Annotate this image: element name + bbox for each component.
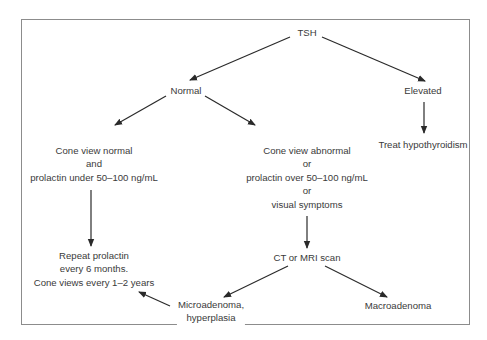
node-label-line: prolactin under 50–100 ng/mL xyxy=(30,171,157,184)
edge-ctmri-macro xyxy=(325,266,387,297)
edge-ctmri-micro xyxy=(224,266,288,297)
node-ct-mri-scan: CT or MRI scan xyxy=(273,251,342,264)
node-label: Macroadenoma xyxy=(365,300,432,311)
node-tsh: TSH xyxy=(296,26,317,39)
node-macroadenoma: Macroadenoma xyxy=(364,299,433,312)
node-label: TSH xyxy=(297,27,316,38)
edge-tsh-normal xyxy=(190,37,290,80)
edge-normal-coneabnormal xyxy=(205,96,255,125)
node-label: Elevated xyxy=(404,85,441,96)
node-normal: Normal xyxy=(170,84,203,97)
node-label-line: or xyxy=(246,157,368,170)
node-label-line: Cone views every 1–2 years xyxy=(34,276,155,289)
edge-tsh-elevated xyxy=(322,37,425,81)
node-label-line: prolactin over 50–100 ng/mL xyxy=(246,171,368,184)
node-label-line: every 6 months. xyxy=(34,262,155,275)
node-label-line: Microadenoma, xyxy=(178,298,244,311)
node-cone-view-abnormal: Cone view abnormal or prolactin over 50–… xyxy=(245,144,369,211)
node-label-line: or xyxy=(246,184,368,197)
node-label-line: Cone view abnormal xyxy=(246,144,368,157)
node-label-line: and xyxy=(30,157,157,170)
node-repeat-prolactin: Repeat prolactin every 6 months. Cone vi… xyxy=(33,249,156,289)
edge-micro-repeat xyxy=(139,292,170,306)
node-label-line: Repeat prolactin xyxy=(34,249,155,262)
node-label: Normal xyxy=(171,85,202,96)
node-label: CT or MRI scan xyxy=(274,252,341,263)
node-label-line: Cone view normal xyxy=(30,144,157,157)
node-label-line: hyperplasia xyxy=(178,311,244,324)
node-microadenoma: Microadenoma, hyperplasia xyxy=(177,298,245,325)
node-treat-hypothyroidism: Treat hypothyroidism xyxy=(377,138,468,151)
edge-normal-conenormal xyxy=(115,96,166,125)
node-label: Treat hypothyroidism xyxy=(378,139,467,150)
node-label-line: visual symptoms xyxy=(246,198,368,211)
node-cone-view-normal: Cone view normal and prolactin under 50–… xyxy=(29,144,158,184)
node-elevated: Elevated xyxy=(403,84,442,97)
